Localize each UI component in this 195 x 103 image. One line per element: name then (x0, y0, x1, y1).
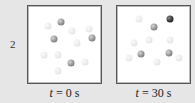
particle-gray (166, 50, 173, 57)
particle-light (86, 26, 93, 33)
particle-box-1 (116, 5, 191, 84)
time-caption-0: t = 0 s (26, 86, 103, 101)
particle-light (136, 16, 143, 23)
particle-box-0 (27, 5, 102, 84)
particle-light (55, 68, 62, 75)
particle-light (55, 52, 62, 59)
particle-gray (89, 35, 96, 42)
time-value: = 30 s (139, 86, 171, 100)
particle-light (131, 40, 138, 47)
particle-light (41, 52, 48, 59)
particle-gray (68, 60, 75, 67)
particle-light (69, 28, 76, 35)
time-caption-1: t = 30 s (115, 86, 192, 101)
row-number-label: 2 (10, 38, 16, 50)
particle-light (82, 59, 89, 66)
particle-gray (51, 36, 58, 43)
particle-light (74, 40, 81, 47)
particle-gray (151, 24, 158, 31)
time-value: = 0 s (53, 86, 79, 100)
particle-light (126, 55, 133, 62)
particle-light (167, 37, 174, 44)
particle-light (146, 37, 153, 44)
particle-light (176, 55, 183, 62)
particle-gray (138, 51, 145, 58)
particle-dark (167, 16, 174, 23)
particle-light (45, 23, 52, 30)
particle-gray (58, 19, 65, 26)
particle-light (154, 59, 161, 66)
